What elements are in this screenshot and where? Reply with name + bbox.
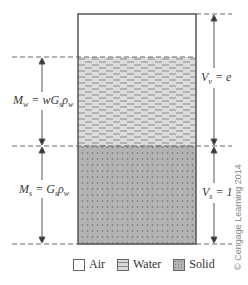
water-phase bbox=[78, 57, 196, 146]
solid-swatch-icon bbox=[173, 259, 185, 271]
legend-item-air: Air bbox=[73, 257, 105, 272]
phase-diagram-canvas bbox=[0, 0, 248, 285]
legend-item-water: Water bbox=[117, 257, 161, 272]
copyright-notice: © Cengage Learning 2014 bbox=[233, 164, 243, 270]
void-volume-label: Vv = e bbox=[200, 70, 232, 86]
solid-mass-label: Ms = Gsρw bbox=[18, 182, 70, 198]
solid-phase bbox=[78, 146, 196, 244]
air-phase bbox=[78, 14, 196, 57]
legend-label-solid: Solid bbox=[189, 257, 214, 272]
legend-label-air: Air bbox=[89, 257, 105, 272]
legend-item-solid: Solid bbox=[173, 257, 214, 272]
water-swatch-icon bbox=[117, 259, 129, 271]
solid-volume-label: Vs = 1 bbox=[201, 185, 234, 201]
water-mass-label: Mw = wGsρw bbox=[12, 93, 74, 109]
legend: Air Water Solid bbox=[73, 257, 223, 272]
legend-label-water: Water bbox=[133, 257, 161, 272]
air-swatch-icon bbox=[73, 259, 85, 271]
